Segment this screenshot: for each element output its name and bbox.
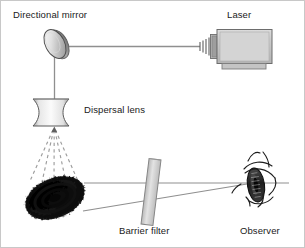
- lens-focus-marker: [52, 127, 58, 133]
- laser-base: [222, 64, 266, 70]
- fingerprint-evidence: [19, 168, 91, 227]
- directional-mirror: [39, 25, 73, 64]
- label-dispersal-lens: Dispersal lens: [84, 104, 145, 115]
- dispersed-light-rays: [30, 130, 78, 183]
- diagram-canvas: [1, 1, 305, 248]
- label-laser: Laser: [227, 9, 251, 20]
- label-barrier-filter: Barrier filter: [119, 225, 170, 236]
- label-observer: Observer: [240, 225, 280, 236]
- dispersal-lens: [33, 99, 69, 126]
- ray-lower: [83, 183, 253, 211]
- label-directional-mirror: Directional mirror: [13, 9, 87, 20]
- laser-source: [200, 30, 272, 70]
- laser-emitter-fins: [200, 38, 209, 56]
- observer-eye: [232, 152, 276, 207]
- optical-diagram-figure: Directional mirror Laser Dispersal lens …: [0, 0, 305, 248]
- barrier-filter: [141, 159, 161, 226]
